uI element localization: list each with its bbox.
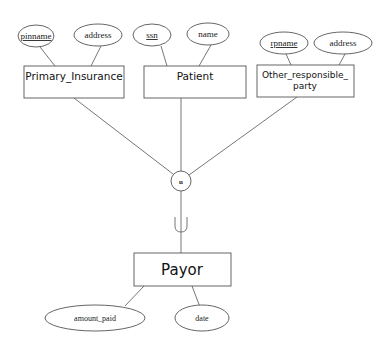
connector-address-primary xyxy=(91,46,101,66)
connector-date xyxy=(192,286,200,307)
attr-label-name: name xyxy=(198,29,218,39)
entity-label-payor: Payor xyxy=(161,261,204,279)
connector-amount-paid xyxy=(125,286,144,306)
union-label: u xyxy=(179,178,183,186)
connector-ssn xyxy=(161,46,167,66)
connector-primary-union xyxy=(74,98,173,174)
attr-label-ssn: ssn xyxy=(146,30,158,40)
connector-rpname xyxy=(286,54,291,65)
entity-label-other-line2: party xyxy=(293,81,317,91)
connector-address-other xyxy=(339,54,345,65)
attr-label-date: date xyxy=(195,314,209,323)
attr-label-rpname: rpname xyxy=(271,38,298,48)
connector-name xyxy=(199,45,211,66)
attr-label-address-other: address xyxy=(330,38,357,48)
entity-label-primary-insurance: Primary_Insurance xyxy=(25,70,122,83)
er-diagram: pinname address ssn name rpname address … xyxy=(0,0,392,349)
connector-other-union xyxy=(189,97,297,175)
connector-pinname xyxy=(40,47,55,66)
attr-label-address-primary: address xyxy=(85,30,112,40)
attr-label-pinname: pinname xyxy=(21,31,52,41)
entity-label-patient: Patient xyxy=(177,70,214,82)
entity-label-other-line1: Other_responsible_ xyxy=(262,70,349,80)
attr-label-amount-paid: amount_paid xyxy=(74,314,116,323)
